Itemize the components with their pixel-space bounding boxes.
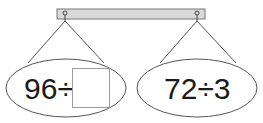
left-expression: 96÷ xyxy=(24,74,74,104)
right-divide-sign: ÷ xyxy=(197,72,213,105)
left-dividend: 96 xyxy=(24,72,57,105)
hanging-bar xyxy=(57,9,205,19)
left-divisor-blank-box[interactable] xyxy=(72,68,110,108)
right-dividend: 72 xyxy=(164,72,197,105)
right-expression: 72÷3 xyxy=(164,74,231,104)
left-strings xyxy=(28,21,104,63)
right-strings xyxy=(160,21,236,63)
right-divisor: 3 xyxy=(214,72,231,105)
